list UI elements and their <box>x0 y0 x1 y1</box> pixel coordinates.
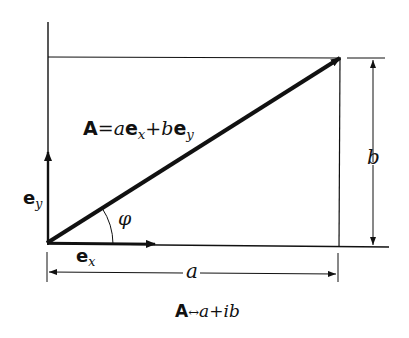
unit-vector-ex <box>47 243 155 244</box>
angle-arc <box>102 208 113 244</box>
vector-A <box>47 58 340 243</box>
vector-A-symbol: A <box>83 117 98 139</box>
a-dimension-left <box>49 272 183 273</box>
diagram-svg <box>0 0 409 338</box>
rect-right-edge <box>339 58 340 247</box>
vector-diagram: A=aex+bey ey ex φ a b A↔a+ib <box>0 0 409 338</box>
rect-top-edge <box>48 57 341 58</box>
angle-phi-label: φ <box>118 209 131 228</box>
unit-vector-ey-label: ey <box>23 189 42 207</box>
dimension-a-label: a <box>186 261 198 281</box>
dimension-b-label: b <box>367 147 380 167</box>
unit-vector-ex-label: ex <box>76 247 95 265</box>
vector-equation-label: A=aex+bey <box>83 119 194 138</box>
a-dimension-right <box>200 273 336 274</box>
complex-correspondence-label: A↔a+ib <box>175 303 240 320</box>
